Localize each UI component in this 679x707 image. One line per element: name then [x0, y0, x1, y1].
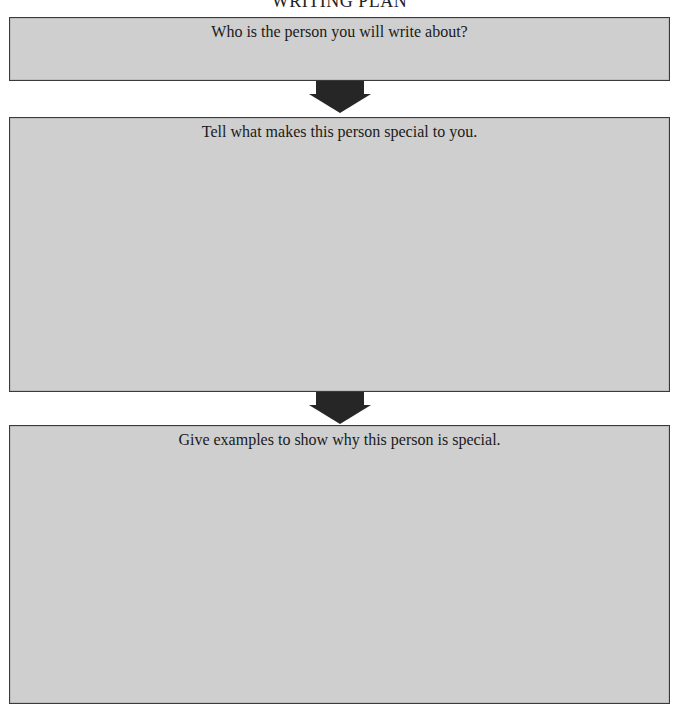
- person-box[interactable]: Who is the person you will write about?: [9, 17, 670, 81]
- special-prompt: Tell what makes this person special to y…: [10, 123, 669, 141]
- examples-prompt: Give examples to show why this person is…: [10, 431, 669, 449]
- arrow-head: [309, 405, 371, 424]
- special-box[interactable]: Tell what makes this person special to y…: [9, 117, 670, 392]
- arrow-shaft: [316, 392, 364, 406]
- arrow-shaft: [316, 81, 364, 95]
- down-arrow-icon: [309, 392, 371, 425]
- examples-box[interactable]: Give examples to show why this person is…: [9, 425, 670, 704]
- page-title: WRITING PLAN: [0, 0, 679, 12]
- arrow-head: [309, 94, 371, 113]
- down-arrow-icon: [309, 81, 371, 115]
- person-prompt: Who is the person you will write about?: [10, 23, 669, 41]
